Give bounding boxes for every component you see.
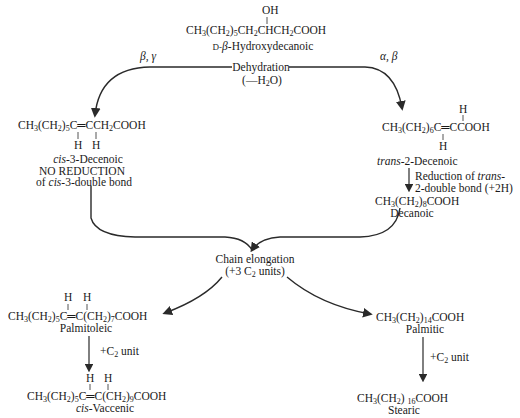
decanoic-name: Decanoic <box>390 207 433 220</box>
palmitoleic-h2: H <box>83 291 91 304</box>
formula-part: (CH <box>395 195 415 207</box>
dehydration-label: Dehydration <box>232 61 289 74</box>
trans2-name: trans-2-Decenoic <box>377 155 457 168</box>
sub-part: O) <box>270 74 282 86</box>
formula-part: C═C(CH <box>79 390 122 402</box>
cis3-formula: CH3(CH2)5C═CCH2COOH <box>18 119 146 132</box>
formula-part: (CH <box>206 24 226 36</box>
formula-part: (CH <box>402 121 422 133</box>
arrow-to-trans2 <box>289 67 402 108</box>
formula-part: CH <box>376 311 392 323</box>
formula-part: (CH <box>28 310 48 322</box>
name-rest: -3-Decenoic <box>66 153 123 165</box>
note-part: Reduction of <box>415 170 478 182</box>
c2-part: +C <box>100 345 114 357</box>
trans2-h-bottom: H <box>439 140 447 153</box>
sub-part: (+3 C <box>225 265 252 277</box>
formula-part: CH <box>27 390 43 402</box>
name-rest: -Hydroxydecanoic <box>228 40 314 52</box>
name-prefix: D- <box>213 42 223 52</box>
formula-part: C═CCH <box>70 119 109 131</box>
palmitoleic-h1: H <box>64 291 72 304</box>
trans2-h-top: H <box>459 103 467 116</box>
formula-part: CH <box>186 24 202 36</box>
c2-unit-left: +C2 unit <box>100 345 139 358</box>
formula-part: (CH <box>377 392 397 404</box>
name-italic: cis <box>53 153 66 165</box>
formula-part: COOH <box>115 310 148 322</box>
formula-part: COOH <box>134 390 167 402</box>
merge-brace-left <box>91 186 252 250</box>
branch-label-alpha-beta: α, β <box>380 50 398 63</box>
vaccenic-name: cis-Vaccenic <box>76 402 134 415</box>
name-italic: cis <box>76 402 89 414</box>
note-part: - <box>501 170 505 182</box>
formula-part: CH <box>8 310 24 322</box>
trans2-formula: CH3(CH2)6C═CCOOH <box>382 121 490 134</box>
formula-part: (CH <box>38 119 58 131</box>
stearic-name: Stearic <box>388 404 420 417</box>
formula-part: CH <box>18 119 34 131</box>
branch-label-beta-gamma: β, γ <box>140 50 156 63</box>
arrow-to-palmitic <box>287 277 370 314</box>
c2-part: unit <box>118 345 139 357</box>
formula-part: CHCH <box>258 24 290 36</box>
sub-part: (—H <box>242 74 266 86</box>
formula-part: CH <box>382 121 398 133</box>
formula-part: C═CCOOH <box>434 121 490 133</box>
reduction-note-2: 2-double bond (+2H) <box>415 182 513 195</box>
formula-part: (CH <box>47 390 67 402</box>
cis3-note-bond: of cis-3-double bond <box>36 176 132 189</box>
formula-part: COOH <box>113 119 146 131</box>
sub-part: units) <box>256 265 285 277</box>
name-rest: -2-Decenoic <box>401 155 458 167</box>
name-rest: -Vaccenic <box>89 402 134 414</box>
formula-part: COOH <box>432 311 465 323</box>
elongation-sub: (+3 C2 units) <box>225 265 285 278</box>
note-part: of <box>36 176 48 188</box>
formula-part: COOH <box>416 392 449 404</box>
formula-part: CH <box>238 24 254 36</box>
cis3-h2: H <box>92 139 100 152</box>
merge-brace-right <box>252 208 400 250</box>
c2-part: unit <box>448 351 469 363</box>
formula-part: CH <box>375 195 391 207</box>
note-italic: cis <box>49 176 62 188</box>
arrow-to-cis3 <box>95 67 232 115</box>
formula-part: CH <box>357 392 373 404</box>
dehydration-sub: (—H2O) <box>242 74 282 87</box>
formula-part: COOH <box>427 195 460 207</box>
note-italic: trans <box>478 170 502 182</box>
formula-part: COOH <box>294 24 327 36</box>
palmitoleic-name: Palmitoleic <box>60 322 112 335</box>
palmitic-name: Palmitic <box>406 323 444 336</box>
formula-part: C═C(CH <box>60 310 103 322</box>
c2-unit-right: +C2 unit <box>430 351 469 364</box>
hydroxy-oh: OH <box>262 4 279 17</box>
cis3-h1: H <box>74 139 82 152</box>
vaccenic-h2: H <box>104 372 112 385</box>
name-italic: trans <box>377 155 401 167</box>
hydroxy-formula: CH3(CH2)5CH2CHCH2COOH <box>186 24 326 37</box>
c2-part: +C <box>430 351 444 363</box>
arrow-to-palmitoleic <box>165 277 222 313</box>
note-part: -3-double bond <box>61 176 132 188</box>
formula-part: ) <box>401 392 408 404</box>
vaccenic-h1: H <box>86 372 94 385</box>
formula-part: (CH <box>396 311 416 323</box>
hydroxy-name: D-β-Hydroxydecanoic <box>213 40 314 54</box>
